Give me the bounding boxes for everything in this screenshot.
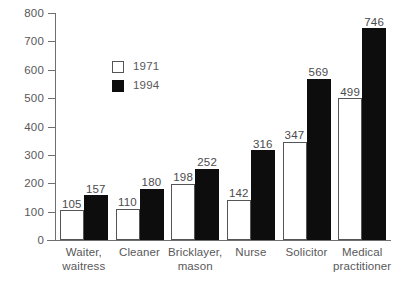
bar-group: 110180 [116, 13, 164, 240]
bar-group: 198252 [171, 13, 219, 240]
x-axis-line [47, 240, 391, 241]
y-axis-tick [48, 155, 56, 156]
legend-item: 1971 [112, 59, 159, 75]
bar-value-label: 569 [309, 66, 329, 79]
bar-value-label: 110 [118, 196, 137, 209]
bar-value-label: 347 [285, 129, 305, 142]
category-label-line: practitioner [328, 259, 396, 273]
bar-group: 105157 [60, 13, 108, 240]
legend: 1971 1994 [112, 59, 159, 97]
x-axis-category-label: Medicalpractitioner [328, 245, 396, 273]
y-axis-tick-label: 100 [4, 207, 44, 219]
y-axis-tick [48, 41, 56, 42]
bar-value-label: 180 [142, 176, 162, 189]
category-label-line: mason [161, 259, 229, 273]
legend-item: 1994 [112, 78, 159, 94]
bar: 110 [116, 209, 140, 240]
bar-value-label: 142 [229, 187, 249, 200]
y-axis-tick [48, 70, 56, 71]
y-axis-tick [48, 127, 56, 128]
y-axis-tick [48, 98, 56, 99]
bar-chart: 8007006005004003002001000 10515711018019… [0, 0, 396, 293]
bar-value-label: 252 [197, 156, 217, 169]
bar: 252 [195, 169, 219, 241]
bar: 316 [251, 150, 275, 240]
y-axis-tick-label: 400 [4, 122, 44, 134]
bar-group: 142316 [227, 13, 275, 240]
bar: 142 [227, 200, 251, 240]
y-axis-tick-label: 300 [4, 150, 44, 162]
legend-label: 1994 [133, 80, 159, 92]
bar-value-label: 105 [62, 198, 82, 211]
y-axis-tick-label: 200 [4, 178, 44, 190]
y-axis-tick-label: 500 [4, 93, 44, 105]
category-label-line: Medical [328, 245, 396, 259]
y-axis-tick-label: 800 [4, 8, 44, 20]
legend-label: 1971 [133, 61, 159, 73]
bar: 157 [84, 195, 108, 240]
bar: 569 [307, 79, 331, 240]
bar-value-label: 316 [253, 138, 273, 151]
bar: 347 [283, 142, 307, 240]
y-axis-tick [48, 212, 56, 213]
bar-group: 499746 [338, 13, 386, 240]
bar-value-label: 499 [340, 86, 360, 99]
y-axis-tick-label: 0 [4, 235, 44, 247]
bar: 198 [171, 184, 195, 240]
legend-swatch-icon [112, 61, 124, 73]
legend-swatch-icon [112, 80, 124, 92]
bar-group: 347569 [283, 13, 331, 240]
y-axis-tick [48, 240, 56, 241]
bar-value-label: 198 [173, 171, 193, 184]
bar: 180 [140, 189, 164, 240]
y-axis-tick [48, 183, 56, 184]
y-axis-tick-label: 600 [4, 65, 44, 77]
category-label-line: waitress [50, 259, 118, 273]
bar: 105 [60, 210, 84, 240]
bar: 746 [362, 28, 386, 240]
y-axis-tick [48, 13, 56, 14]
bar: 499 [338, 98, 362, 240]
plot-area: 105157110180198252142316347569499746 [56, 13, 390, 240]
y-axis-tick-label: 700 [4, 36, 44, 48]
bar-value-label: 746 [364, 16, 384, 29]
bar-value-label: 157 [86, 183, 106, 196]
